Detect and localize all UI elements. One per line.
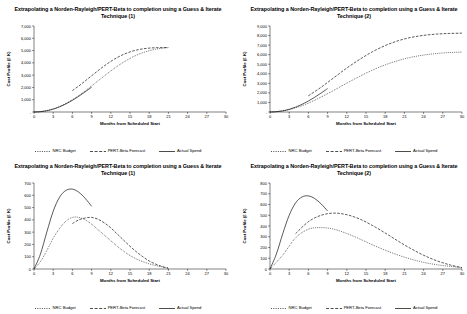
svg-text:3,000: 3,000 bbox=[21, 72, 32, 77]
legend-item: NRC Budget bbox=[35, 148, 76, 153]
legend-swatch-solid bbox=[395, 307, 411, 308]
plot-area: -1,0002,0003,0004,0005,0006,0007,0000369… bbox=[4, 22, 232, 144]
svg-text:400: 400 bbox=[260, 223, 267, 228]
svg-text:5,000: 5,000 bbox=[257, 61, 268, 66]
legend-swatch-dotted bbox=[271, 307, 287, 308]
legend-item: Actual Spend bbox=[395, 148, 437, 153]
legend-swatch-dashed bbox=[326, 150, 342, 151]
svg-text:6: 6 bbox=[307, 114, 310, 119]
panel-bottom-left: Extrapolating a Norden-Rayleigh/PERT-Bet… bbox=[0, 157, 236, 314]
svg-text:300: 300 bbox=[24, 229, 31, 234]
svg-text:7,000: 7,000 bbox=[257, 42, 268, 47]
svg-text:200: 200 bbox=[260, 245, 267, 250]
svg-text:9: 9 bbox=[326, 114, 329, 119]
legend-item: PERT-Beta Forecast bbox=[90, 148, 145, 153]
svg-text:700: 700 bbox=[24, 180, 31, 185]
svg-text:Cost Profile (£ K): Cost Profile (£ K) bbox=[242, 208, 247, 243]
svg-text:30: 30 bbox=[460, 114, 465, 119]
svg-text:3: 3 bbox=[52, 271, 55, 276]
plot-area: 0100200300400500600700800036912151821242… bbox=[240, 179, 467, 301]
svg-text:Months from Scheduled Start: Months from Scheduled Start bbox=[336, 277, 396, 282]
legend-item: Actual Spend bbox=[159, 305, 201, 310]
legend-label: PERT-Beta Forecast bbox=[108, 148, 145, 153]
legend-swatch-dashed bbox=[326, 307, 342, 308]
svg-text:15: 15 bbox=[128, 271, 133, 276]
legend-label: Actual Spend bbox=[177, 148, 201, 153]
legend-swatch-dotted bbox=[35, 150, 51, 151]
svg-text:27: 27 bbox=[441, 271, 446, 276]
legend-label: PERT-Beta Forecast bbox=[344, 305, 381, 310]
svg-text:400: 400 bbox=[24, 217, 31, 222]
plot-area: -1,0002,0003,0004,0005,0006,0007,0008,00… bbox=[240, 22, 467, 144]
svg-text:0: 0 bbox=[269, 271, 272, 276]
legend-label: PERT-Beta Forecast bbox=[108, 305, 145, 310]
svg-text:27: 27 bbox=[441, 114, 446, 119]
legend-label: NRC Budget bbox=[289, 148, 312, 153]
panel-title: Extrapolating a Norden-Rayleigh/PERT-Bet… bbox=[250, 163, 458, 178]
legend-swatch-dotted bbox=[35, 307, 51, 308]
svg-text:30: 30 bbox=[224, 114, 229, 119]
svg-text:3,000: 3,000 bbox=[257, 80, 268, 85]
svg-text:18: 18 bbox=[383, 114, 388, 119]
plot-svg-bottom-right: 0100200300400500600700800036912151821242… bbox=[240, 179, 467, 287]
svg-text:15: 15 bbox=[364, 114, 369, 119]
legend: NRC Budget PERT-Beta Forecast Actual Spe… bbox=[4, 145, 232, 155]
svg-text:500: 500 bbox=[260, 212, 267, 217]
legend-item: PERT-Beta Forecast bbox=[90, 305, 145, 310]
legend-label: PERT-Beta Forecast bbox=[344, 148, 381, 153]
svg-text:30: 30 bbox=[460, 271, 465, 276]
panel-top-left: Extrapolating a Norden-Rayleigh/PERT-Bet… bbox=[0, 0, 236, 157]
svg-text:6: 6 bbox=[71, 114, 74, 119]
svg-text:3: 3 bbox=[288, 114, 291, 119]
legend: NRC Budget PERT-Beta Forecast Actual Spe… bbox=[240, 145, 467, 155]
svg-text:15: 15 bbox=[128, 114, 133, 119]
svg-text:6: 6 bbox=[307, 271, 310, 276]
legend-item: PERT-Beta Forecast bbox=[326, 148, 381, 153]
svg-text:12: 12 bbox=[345, 114, 350, 119]
svg-text:24: 24 bbox=[185, 114, 190, 119]
svg-text:21: 21 bbox=[166, 114, 171, 119]
legend-label: NRC Budget bbox=[53, 305, 76, 310]
svg-text:15: 15 bbox=[364, 271, 369, 276]
plot-svg-bottom-left: 0100200300400500600700036912151821242730… bbox=[4, 179, 232, 287]
svg-text:700: 700 bbox=[260, 191, 267, 196]
svg-text:200: 200 bbox=[24, 242, 31, 247]
svg-text:9: 9 bbox=[326, 271, 329, 276]
svg-text:600: 600 bbox=[24, 192, 31, 197]
legend-swatch-dashed bbox=[90, 150, 106, 151]
svg-text:Cost Profile (£ K): Cost Profile (£ K) bbox=[6, 51, 11, 86]
svg-text:9: 9 bbox=[90, 114, 93, 119]
svg-text:0: 0 bbox=[33, 271, 36, 276]
svg-text:800: 800 bbox=[260, 180, 267, 185]
svg-text:12: 12 bbox=[109, 271, 114, 276]
svg-text:24: 24 bbox=[185, 271, 190, 276]
panel-title: Extrapolating a Norden-Rayleigh/PERT-Bet… bbox=[14, 163, 222, 178]
svg-text:300: 300 bbox=[260, 234, 267, 239]
plot-svg-top-right: -1,0002,0003,0004,0005,0006,0007,0008,00… bbox=[240, 22, 467, 130]
plot-svg-top-left: -1,0002,0003,0004,0005,0006,0007,0000369… bbox=[4, 22, 232, 130]
svg-text:5,000: 5,000 bbox=[21, 48, 32, 53]
svg-text:2,000: 2,000 bbox=[21, 85, 32, 90]
svg-text:8,000: 8,000 bbox=[257, 33, 268, 38]
legend-label: Actual Spend bbox=[177, 305, 201, 310]
legend-item: NRC Budget bbox=[271, 305, 312, 310]
legend-item: NRC Budget bbox=[35, 305, 76, 310]
svg-text:21: 21 bbox=[166, 271, 171, 276]
legend-label: NRC Budget bbox=[53, 148, 76, 153]
svg-text:2,000: 2,000 bbox=[257, 90, 268, 95]
svg-text:Months from Scheduled Start: Months from Scheduled Start bbox=[100, 277, 160, 282]
svg-text:0: 0 bbox=[269, 114, 272, 119]
svg-text:0: 0 bbox=[265, 266, 268, 271]
legend-swatch-solid bbox=[395, 150, 411, 151]
svg-text:6: 6 bbox=[71, 271, 74, 276]
svg-text:27: 27 bbox=[205, 114, 210, 119]
svg-text:21: 21 bbox=[402, 271, 407, 276]
svg-text:0: 0 bbox=[33, 114, 36, 119]
plot-area: 0100200300400500600700036912151821242730… bbox=[4, 179, 232, 301]
legend-swatch-solid bbox=[159, 307, 175, 308]
svg-text:24: 24 bbox=[421, 271, 426, 276]
svg-text:21: 21 bbox=[402, 114, 407, 119]
svg-text:6,000: 6,000 bbox=[21, 35, 32, 40]
svg-text:Months from Scheduled Start: Months from Scheduled Start bbox=[336, 120, 396, 125]
svg-text:Months from Scheduled Start: Months from Scheduled Start bbox=[100, 120, 160, 125]
